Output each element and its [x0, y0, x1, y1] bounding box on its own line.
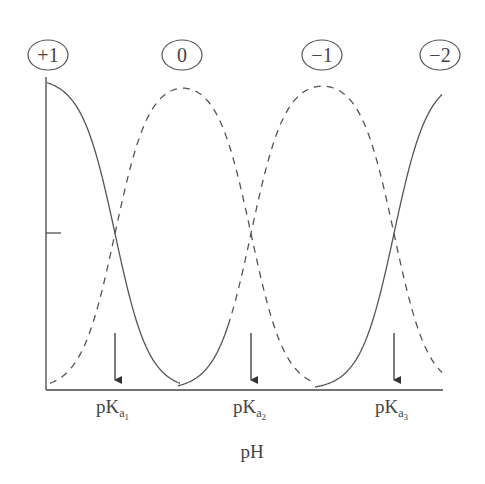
x-tick-labels: pKa1 pKa2 pKa3	[96, 396, 409, 422]
species-label-minus2: −2	[420, 40, 460, 70]
speciation-chart: +1 0 −1 −2 pKa1 pKa2 pKa3	[0, 0, 485, 484]
x-axis-label: pH	[240, 441, 264, 462]
species-label-0: 0	[162, 40, 202, 70]
pka3-label: pKa3	[375, 396, 409, 422]
solid-curve-segment	[315, 95, 442, 388]
svg-text:−1: −1	[311, 44, 332, 66]
dashed-curve-segment	[50, 88, 315, 383]
dashed-curve-segment	[228, 86, 442, 372]
species-curves	[47, 83, 442, 387]
axes	[46, 77, 443, 390]
species-labels: +1 0 −1 −2	[28, 40, 460, 70]
pka1-label: pKa1	[96, 396, 129, 422]
svg-text:+1: +1	[37, 44, 58, 66]
species-label-minus1: −1	[302, 40, 342, 70]
solid-curve-segment	[47, 83, 180, 384]
svg-text:−2: −2	[429, 44, 450, 66]
svg-text:0: 0	[177, 44, 187, 66]
pka2-label: pKa2	[233, 396, 266, 422]
pka-arrows	[115, 333, 394, 380]
solid-curve-segment	[178, 326, 228, 386]
species-label-plus1: +1	[28, 40, 68, 70]
